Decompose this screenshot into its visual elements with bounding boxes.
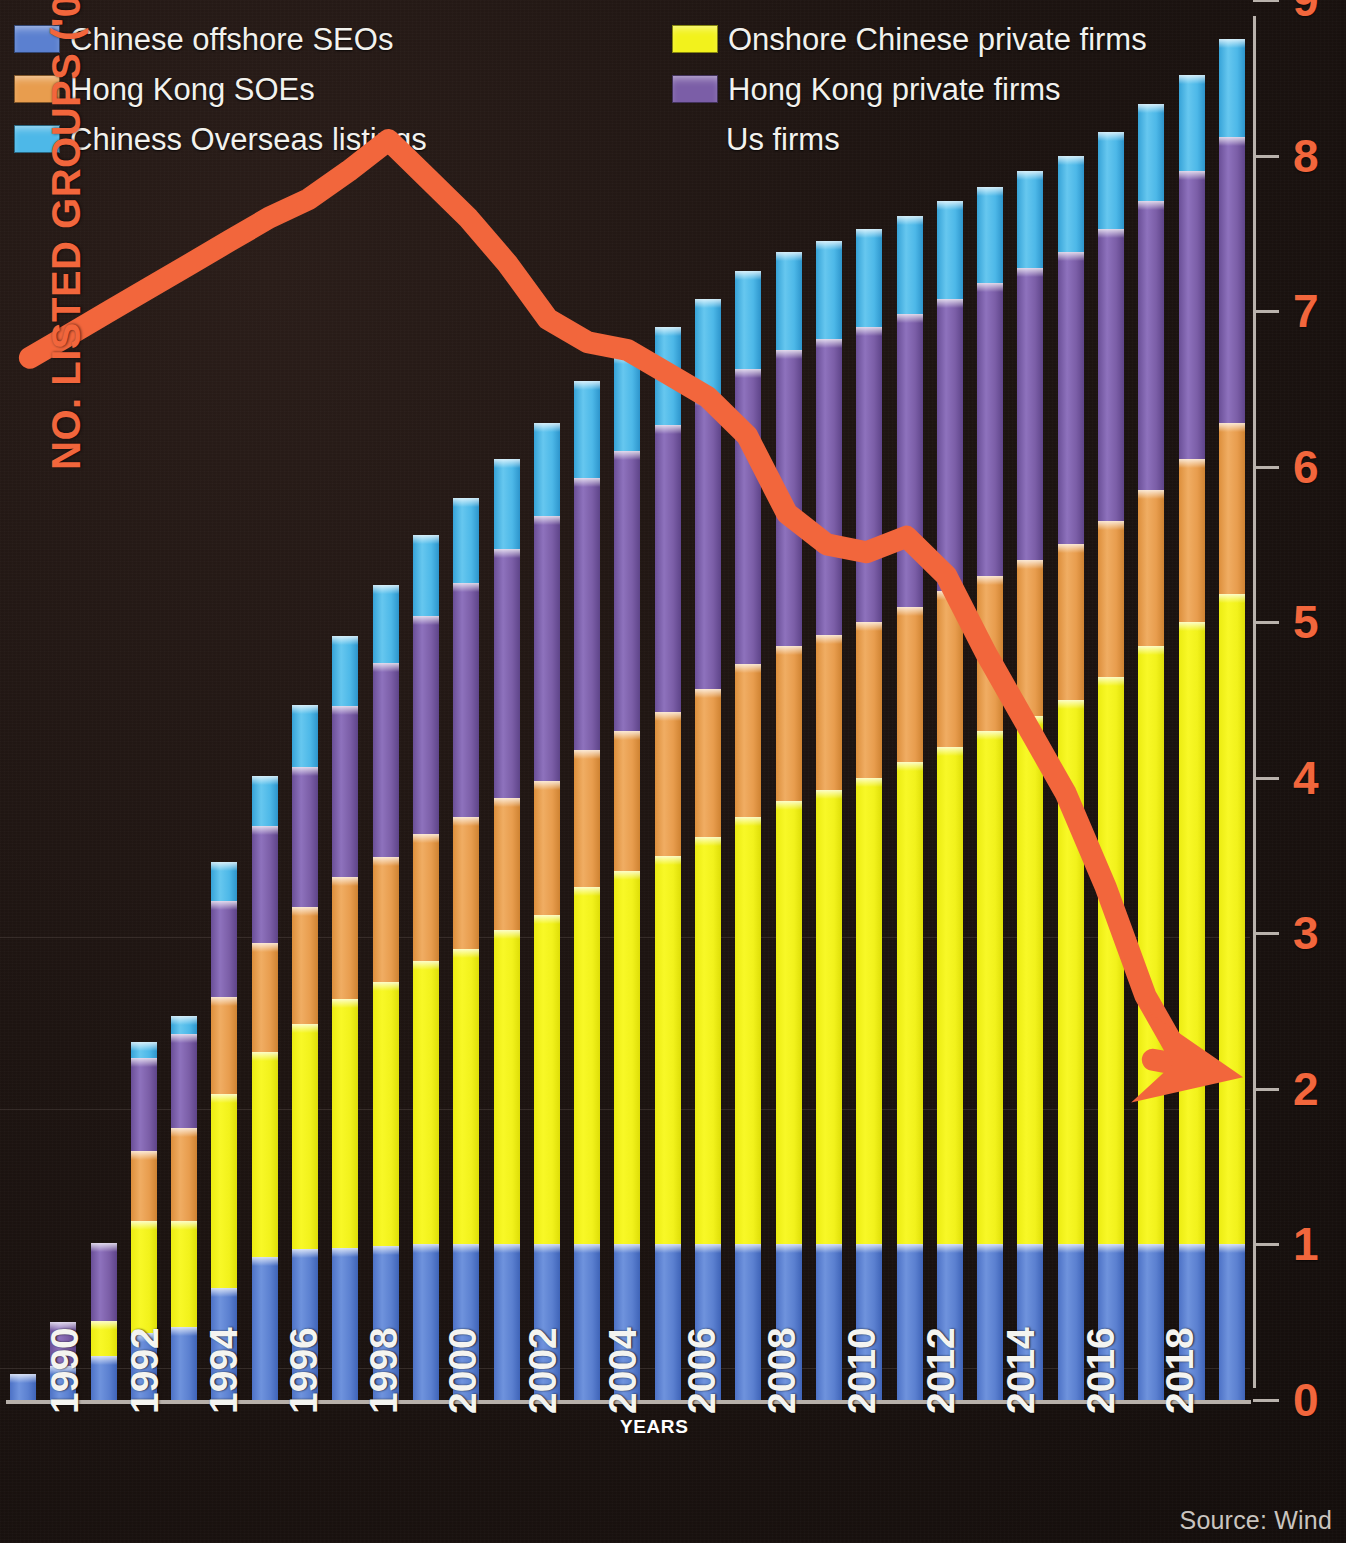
y-axis-tick xyxy=(1253,621,1279,624)
bar-segment xyxy=(695,837,721,1245)
y-axis-tick-label: 0 xyxy=(1293,1377,1319,1423)
bar-column[interactable] xyxy=(816,0,842,1400)
y-axis-tick-label: 3 xyxy=(1293,910,1319,956)
bar-column[interactable] xyxy=(735,0,761,1400)
bar-segment xyxy=(897,314,923,606)
bar-column[interactable] xyxy=(1219,0,1245,1400)
bar-column[interactable] xyxy=(856,0,882,1400)
bar-segment xyxy=(1098,521,1124,677)
bar-column[interactable] xyxy=(332,0,358,1400)
bar-segment xyxy=(252,826,278,943)
stacked-bar-series xyxy=(10,0,1245,1400)
bar-column[interactable] xyxy=(252,0,278,1400)
bar-segment xyxy=(413,1244,439,1400)
bar-column[interactable] xyxy=(655,0,681,1400)
bar-column[interactable] xyxy=(373,0,399,1400)
bar-column[interactable] xyxy=(574,0,600,1400)
chart-background: Chinese offshore SEOsHong Kong SOEsChine… xyxy=(0,0,1346,1543)
y-axis-tick-label: 4 xyxy=(1293,755,1319,801)
bar-column[interactable] xyxy=(897,0,923,1400)
bar-column[interactable] xyxy=(131,0,157,1400)
bar-column[interactable] xyxy=(1138,0,1164,1400)
bar-segment xyxy=(1017,716,1043,1245)
bar-segment xyxy=(1058,700,1084,1244)
bar-column[interactable] xyxy=(1179,0,1205,1400)
bar-segment xyxy=(413,961,439,1244)
bar-segment xyxy=(776,350,802,646)
y-axis-tick-label: 1 xyxy=(1293,1221,1319,1267)
bar-segment xyxy=(1058,252,1084,544)
bar-column[interactable] xyxy=(776,0,802,1400)
bar-segment xyxy=(776,646,802,802)
bar-segment xyxy=(413,834,439,962)
bar-segment xyxy=(1058,544,1084,700)
y-axis-tick xyxy=(1253,1399,1279,1402)
bar-segment xyxy=(695,299,721,397)
bar-segment xyxy=(171,1016,197,1035)
bar-segment xyxy=(937,747,963,1245)
bar-segment xyxy=(332,999,358,1248)
bar-column[interactable] xyxy=(494,0,520,1400)
plot-area xyxy=(10,0,1245,1400)
x-axis-tick-label: 2012 xyxy=(921,1327,960,1414)
bar-segment xyxy=(1179,622,1205,1244)
bar-segment xyxy=(494,930,520,1244)
bar-column[interactable] xyxy=(937,0,963,1400)
bar-segment xyxy=(292,907,318,1024)
bar-column[interactable] xyxy=(171,0,197,1400)
bar-column[interactable] xyxy=(1058,0,1084,1400)
bar-segment xyxy=(977,576,1003,732)
bar-segment xyxy=(131,1042,157,1058)
x-axis-title: YEARS xyxy=(620,1416,688,1438)
bar-segment xyxy=(171,1221,197,1327)
bar-segment xyxy=(614,871,640,1244)
bar-column[interactable] xyxy=(453,0,479,1400)
bar-segment xyxy=(131,1151,157,1221)
bar-segment xyxy=(977,283,1003,575)
bar-segment xyxy=(413,535,439,616)
bar-segment xyxy=(1219,423,1245,594)
bar-segment xyxy=(332,1248,358,1400)
bar-column[interactable] xyxy=(10,0,36,1400)
bar-segment xyxy=(856,327,882,623)
bar-column[interactable] xyxy=(534,0,560,1400)
bar-segment xyxy=(897,762,923,1244)
bar-column[interactable] xyxy=(695,0,721,1400)
bar-column[interactable] xyxy=(292,0,318,1400)
bar-segment xyxy=(211,901,237,997)
bar-segment xyxy=(574,887,600,1245)
source-note: Source: Wind xyxy=(1180,1506,1332,1535)
bar-segment xyxy=(1219,1244,1245,1400)
y-axis-tick-label: 9 xyxy=(1293,0,1319,23)
bar-segment xyxy=(614,731,640,871)
bar-column[interactable] xyxy=(91,0,117,1400)
bar-segment xyxy=(1219,137,1245,423)
bar-column[interactable] xyxy=(413,0,439,1400)
bar-segment xyxy=(494,549,520,798)
bar-segment xyxy=(1017,268,1043,560)
bar-segment xyxy=(211,997,237,1093)
bar-segment xyxy=(131,1058,157,1151)
bar-segment xyxy=(453,498,479,584)
bar-segment xyxy=(453,817,479,949)
y-axis-title: NO. LISTED GROUPS ('000) xyxy=(44,0,89,470)
bar-segment xyxy=(816,241,842,339)
bar-column[interactable] xyxy=(211,0,237,1400)
bar-segment xyxy=(252,1257,278,1400)
bar-column[interactable] xyxy=(1017,0,1043,1400)
bar-column[interactable] xyxy=(1098,0,1124,1400)
bar-segment xyxy=(91,1356,117,1400)
bar-segment xyxy=(494,459,520,549)
bar-segment xyxy=(1179,459,1205,622)
bar-segment xyxy=(695,689,721,837)
y-axis-tick xyxy=(1253,466,1279,469)
x-axis-tick-label: 1990 xyxy=(45,1327,84,1414)
bar-segment xyxy=(897,607,923,763)
bar-column[interactable] xyxy=(977,0,1003,1400)
bar-column[interactable] xyxy=(614,0,640,1400)
bar-segment xyxy=(816,635,842,791)
bar-segment xyxy=(574,1244,600,1400)
x-axis-tick-label: 2010 xyxy=(842,1327,881,1414)
y-axis-tick xyxy=(1253,1243,1279,1246)
bar-segment xyxy=(1017,171,1043,267)
